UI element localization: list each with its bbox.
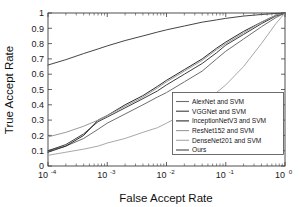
y-axis-tick-labels: 00.10.20.30.40.50.60.70.80.91 [31,8,44,171]
x-tick-label: 10-1 [216,168,235,181]
y-tick-label: 0.7 [31,54,44,64]
x-tick-exponent: 0 [289,168,293,175]
chart-legend: AlexNet and SVMVGGNet and SVMInceptionNe… [173,93,284,155]
legend-label-1: VGGNet and SVM [192,108,246,115]
roc-curve-series-5 [48,13,285,65]
x-tick-label: 10-3 [97,168,116,181]
y-tick-label: 0 [39,161,44,171]
x-axis-tick-labels: 10-410-310-210-1100 [38,168,293,181]
x-tick-label: 10-2 [156,168,175,181]
y-tick-label: 0.3 [31,115,44,125]
x-tick-mantissa: 10 [97,170,107,180]
legend-label-5: Ours [192,146,207,153]
x-tick-mantissa: 10 [38,170,48,180]
x-tick-exponent: -4 [51,168,57,175]
y-tick-label: 0.2 [31,131,44,141]
y-tick-label: 1 [39,8,44,18]
y-tick-label: 0.8 [31,39,44,49]
y-tick-label: 0.9 [31,24,44,34]
x-tick-mantissa: 10 [216,170,226,180]
roc-chart-svg: 10-410-310-210-1100 00.10.20.30.40.50.60… [0,0,300,207]
legend-label-4: DenseNet201 and SVM [192,137,261,144]
x-tick-mantissa: 10 [275,170,285,180]
y-tick-label: 0.5 [31,85,44,95]
x-tick-mantissa: 10 [156,170,166,180]
x-tick-exponent: -1 [228,168,234,175]
x-tick-exponent: -3 [110,168,116,175]
x-tick-label: 100 [275,168,293,181]
x-axis-title: False Accept Rate [119,192,212,204]
x-tick-exponent: -2 [169,168,175,175]
legend-label-3: ResNet152 and SVM [192,127,254,134]
roc-chart-figure: 10-410-310-210-1100 00.10.20.30.40.50.60… [0,0,300,207]
y-axis-title: True Accept Rate [3,46,15,134]
y-tick-label: 0.1 [31,146,44,156]
legend-label-0: AlexNet and SVM [192,98,244,105]
y-tick-label: 0.6 [31,69,44,79]
y-tick-label: 0.4 [31,100,44,110]
legend-label-2: InceptionNetV3 and SVM [192,117,266,125]
